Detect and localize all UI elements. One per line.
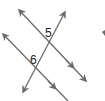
upper-parallel-line (19, 10, 86, 81)
angle-label-5: 5 (45, 27, 52, 39)
angle-label-6: 6 (30, 54, 37, 66)
partial-arrow-icon (102, 30, 105, 36)
parallel-marker-icon (66, 60, 72, 66)
parallel-lines-diagram (0, 0, 105, 101)
parallel-marker-icon (48, 81, 54, 87)
